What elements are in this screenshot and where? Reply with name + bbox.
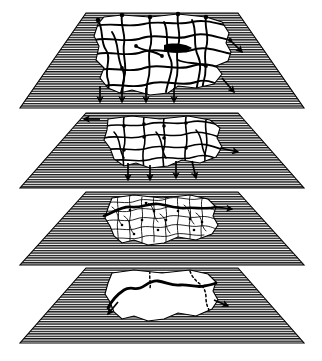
layered-map-illustration xyxy=(0,0,322,361)
layer-4-map-region xyxy=(105,270,218,321)
layered-map-figure xyxy=(0,0,322,361)
